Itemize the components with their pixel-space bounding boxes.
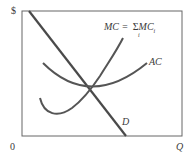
mc-label: MC = ΣMCi	[103, 21, 156, 34]
mc-label-main: MC =	[103, 21, 131, 32]
diagram-canvas: $ 0 Q MC = ΣMCi i AC D	[0, 0, 196, 162]
y-axis-label: $	[11, 5, 16, 16]
origin-label: 0	[10, 141, 15, 152]
d-label: D	[121, 116, 130, 127]
marginal-cost-curve	[40, 38, 123, 114]
x-axis-label: Q	[176, 141, 184, 152]
mc-subscript: i	[154, 28, 156, 34]
ac-label: AC	[148, 56, 162, 67]
sigma-index-label: i	[138, 32, 140, 38]
mc-label-tail: MC	[138, 21, 154, 32]
